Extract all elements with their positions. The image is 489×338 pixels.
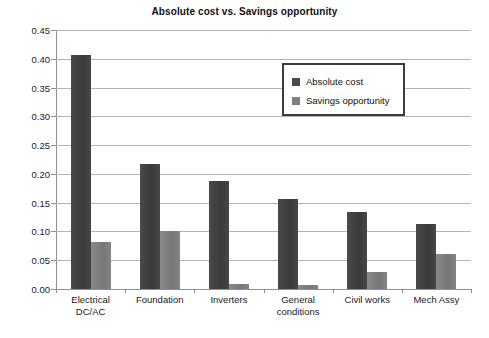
bar-group xyxy=(194,30,263,289)
y-axis-tick-label: 0.40 xyxy=(6,53,50,64)
x-axis-tick-mark xyxy=(56,289,57,293)
y-axis-tick-mark xyxy=(51,174,56,175)
x-axis-tick-mark xyxy=(333,289,334,293)
y-axis-tick-mark xyxy=(51,59,56,60)
legend-item[interactable]: Absolute cost xyxy=(292,72,403,91)
x-axis-category-label: Electrical DC/AC xyxy=(56,294,125,318)
bar-absolute-cost[interactable] xyxy=(278,199,298,289)
y-axis-tick-mark xyxy=(51,88,56,89)
x-axis-tick-mark xyxy=(402,289,403,293)
x-axis-category-label: Foundation xyxy=(125,294,194,306)
plot-area xyxy=(56,30,471,289)
y-axis-tick-mark xyxy=(51,145,56,146)
x-axis-tick-mark xyxy=(264,289,265,293)
legend-item-label: Savings opportunity xyxy=(306,95,389,106)
chart-legend: Absolute costSavings opportunity xyxy=(282,63,405,116)
bar-savings-opportunity[interactable] xyxy=(367,272,387,289)
x-axis-category-label: Mech Assy xyxy=(402,294,471,306)
legend-item[interactable]: Savings opportunity xyxy=(292,91,403,110)
y-axis-tick-mark xyxy=(51,231,56,232)
x-axis-category-label: Civil works xyxy=(333,294,402,306)
bar-group xyxy=(56,30,125,289)
x-axis-tick-mark xyxy=(125,289,126,293)
bar-savings-opportunity[interactable] xyxy=(436,254,456,289)
legend-item-label: Absolute cost xyxy=(306,76,363,87)
bar-absolute-cost[interactable] xyxy=(209,181,229,289)
y-axis-tick-label: 0.30 xyxy=(6,111,50,122)
y-axis-tick-label: 0.25 xyxy=(6,140,50,151)
x-axis-labels: Electrical DC/ACFoundationInvertersGener… xyxy=(56,294,471,334)
y-axis-tick-label: 0.05 xyxy=(6,255,50,266)
bar-group xyxy=(125,30,194,289)
legend-swatch-icon xyxy=(292,78,300,86)
x-axis-tick-mark xyxy=(471,289,472,293)
bar-absolute-cost[interactable] xyxy=(416,224,436,289)
bar-savings-opportunity[interactable] xyxy=(298,285,318,289)
y-axis-tick-mark xyxy=(51,203,56,204)
y-axis-tick-label: 0.15 xyxy=(6,197,50,208)
legend-swatch-icon xyxy=(292,97,300,105)
bar-savings-opportunity[interactable] xyxy=(160,231,180,289)
x-axis-category-label: General conditions xyxy=(264,294,333,318)
x-axis-tick-mark xyxy=(194,289,195,293)
y-axis-tick-label: 0.10 xyxy=(6,226,50,237)
bar-absolute-cost[interactable] xyxy=(347,212,367,289)
y-axis-tick-label: 0.45 xyxy=(6,25,50,36)
y-axis-tick-label: 0.00 xyxy=(6,284,50,295)
y-axis-tick-mark xyxy=(51,30,56,31)
y-axis-tick-label: 0.35 xyxy=(6,82,50,93)
chart-title: Absolute cost vs. Savings opportunity xyxy=(0,6,489,17)
bar-group xyxy=(402,30,471,289)
bar-savings-opportunity[interactable] xyxy=(91,242,111,289)
bar-chart: Absolute cost vs. Savings opportunity 0.… xyxy=(0,0,489,338)
y-axis-tick-mark xyxy=(51,260,56,261)
bar-absolute-cost[interactable] xyxy=(71,55,91,289)
bar-absolute-cost[interactable] xyxy=(140,164,160,289)
y-axis-tick-label: 0.20 xyxy=(6,168,50,179)
y-axis-tick-mark xyxy=(51,116,56,117)
x-axis-category-label: Inverters xyxy=(194,294,263,306)
bar-savings-opportunity[interactable] xyxy=(229,284,249,289)
y-axis: 0.450.400.350.300.250.200.150.100.050.00 xyxy=(0,0,50,338)
